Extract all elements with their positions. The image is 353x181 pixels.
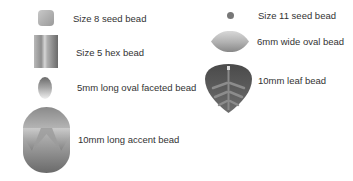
square-seed-bead-icon — [37, 9, 55, 27]
label-leaf-bead: 10mm leaf bead — [258, 76, 326, 86]
leaf-bead-icon — [203, 63, 254, 115]
label-wide-oval-bead: 6mm wide oval bead — [257, 37, 344, 47]
hex-bead-icon — [33, 34, 59, 69]
label-oval-faceted-bead: 5mm long oval faceted bead — [77, 83, 196, 93]
label-size11-seed-bead: Size 11 seed bead — [258, 11, 336, 21]
accent-bead-icon — [21, 106, 72, 174]
label-size5-hex-bead: Size 5 hex bead — [76, 48, 144, 58]
label-accent-bead: 10mm long accent bead — [78, 135, 179, 145]
label-size8-seed-bead: Size 8 seed bead — [73, 14, 146, 24]
wide-oval-bead-icon — [210, 30, 250, 53]
oval-faceted-bead-icon — [37, 76, 53, 100]
round-seed-bead-icon — [226, 11, 235, 20]
